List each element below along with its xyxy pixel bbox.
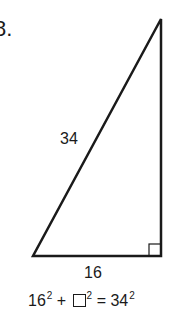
term2-exponent: 2 (87, 290, 93, 301)
plus-sign: + (57, 292, 66, 309)
pythagorean-equation: 162 + 2 = 342 (28, 290, 135, 310)
equals-sign: = (97, 292, 106, 309)
term1-base: 16 (28, 292, 46, 309)
hypotenuse-label: 34 (60, 130, 78, 148)
unknown-box (73, 294, 86, 307)
right-angle-marker (149, 244, 161, 256)
base-label: 16 (84, 264, 102, 282)
rhs-exponent: 2 (129, 290, 135, 301)
rhs-base: 34 (110, 292, 128, 309)
term1-exponent: 2 (47, 290, 53, 301)
